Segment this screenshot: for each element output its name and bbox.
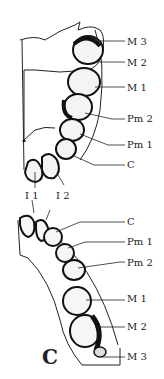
label-upper-c: C [127, 160, 135, 170]
label-lower-m2: M 2 [127, 322, 147, 332]
label-lower-m1: M 1 [127, 294, 147, 304]
label-upper-m3: M 3 [127, 37, 147, 47]
label-lower-pm2: Pm 2 [127, 258, 153, 268]
label-upper-m2: M 2 [127, 58, 147, 68]
label-lower-pm1: Pm 1 [127, 237, 153, 247]
label-upper-i1: I 1 [25, 191, 39, 201]
label-upper-pm2: Pm 2 [127, 114, 153, 124]
label-lower-m3: M 3 [127, 352, 147, 362]
label-lower-c: C [127, 217, 135, 227]
label-upper-i2: I 2 [56, 191, 70, 201]
label-upper-m1: M 1 [127, 83, 147, 93]
label-upper-pm1: Pm 1 [127, 140, 153, 150]
panel-label: C [42, 345, 58, 369]
dental-diagram: M 3 M 2 M 1 Pm 2 Pm 1 C I 1 I 2 C Pm 1 P… [0, 0, 164, 379]
